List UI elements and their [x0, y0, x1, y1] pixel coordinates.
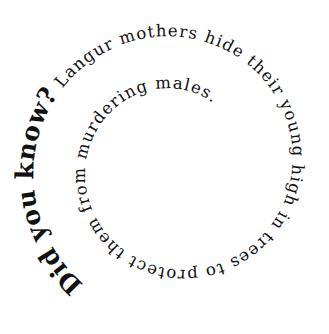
fact-text: Langur mothers hide their young high in …: [47, 21, 308, 285]
spiral-text: Did you know? Langur mothers hide their …: [10, 21, 308, 300]
spiral-text-graphic: Did you know? Langur mothers hide their …: [0, 0, 329, 334]
